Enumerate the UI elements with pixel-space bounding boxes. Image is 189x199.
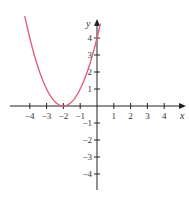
- x-tick-label: 4: [162, 111, 167, 121]
- y-axis-arrow-icon: [94, 19, 100, 26]
- y-tick-label: 1: [88, 84, 93, 94]
- y-tick-label: −4: [82, 169, 92, 179]
- y-tick-label: −1: [82, 118, 92, 128]
- y-tick-label: 4: [88, 33, 93, 43]
- x-tick-label: 2: [128, 111, 133, 121]
- x-tick-label: −3: [42, 111, 52, 121]
- y-tick-label: −3: [82, 152, 92, 162]
- x-tick-label: −2: [59, 111, 69, 121]
- y-tick-label: −2: [82, 135, 92, 145]
- y-axis-label: y: [85, 18, 91, 29]
- x-tick-label: 3: [145, 111, 150, 121]
- axes: [10, 19, 186, 190]
- graph: −4−3−2−11234 4321−1−2−3−4 x y: [0, 0, 189, 199]
- x-axis-label: x: [179, 110, 185, 121]
- x-tick-label: 1: [112, 111, 117, 121]
- x-axis-arrow-icon: [179, 103, 186, 109]
- x-tick-label: −4: [25, 111, 35, 121]
